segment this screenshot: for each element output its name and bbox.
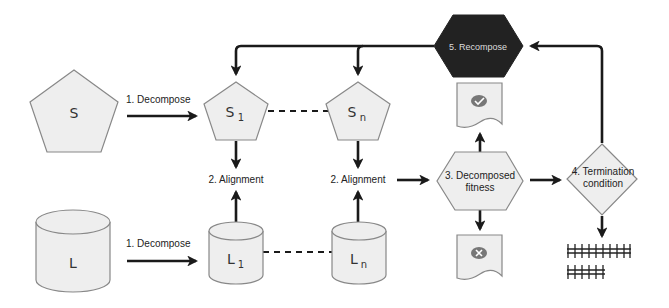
node-doc-pass	[457, 83, 502, 127]
diagram-canvas: 1. Decompose 1. Decompose 2. Alignment 2…	[0, 0, 669, 308]
svg-text:L: L	[227, 251, 235, 267]
label-alignment-1: 2. Alignment	[208, 174, 263, 185]
label-alignment-n: 2. Alignment	[330, 174, 385, 185]
label-decompose-l: 1. Decompose	[126, 238, 191, 249]
svg-text:3. Decomposed: 3. Decomposed	[445, 170, 515, 181]
node-l: L	[36, 210, 110, 292]
svg-text:n: n	[361, 259, 367, 270]
svg-text:S: S	[226, 104, 235, 120]
edge-recompose-s1	[236, 46, 434, 74]
cross-icon	[471, 247, 487, 259]
svg-text:S: S	[70, 105, 79, 121]
tally-marks-icon	[567, 244, 631, 279]
node-s: S	[30, 70, 118, 152]
node-l1: L 1	[209, 222, 263, 284]
svg-text:fitness: fitness	[466, 182, 495, 193]
svg-text:L: L	[350, 251, 358, 267]
node-sn: S n	[326, 82, 390, 140]
svg-text:condition: condition	[583, 178, 623, 189]
node-decomposed-fitness: 3. Decomposed fitness	[437, 152, 523, 210]
svg-text:4. Termination: 4. Termination	[572, 166, 635, 177]
node-doc-fail	[457, 235, 502, 279]
svg-text:L: L	[69, 255, 77, 271]
node-s1: S 1	[204, 82, 268, 140]
svg-text:n: n	[360, 112, 366, 123]
check-icon	[471, 95, 487, 107]
svg-text:S: S	[348, 104, 357, 120]
svg-text:1: 1	[238, 112, 244, 123]
node-termination: 4. Termination condition	[567, 144, 637, 215]
label-decompose-s: 1. Decompose	[126, 94, 191, 105]
node-recompose: 5. Recompose	[434, 15, 523, 77]
node-ln: L n	[332, 222, 386, 284]
edge-termination-recompose	[531, 46, 602, 143]
edge-recompose-sn	[358, 46, 363, 74]
svg-text:1: 1	[238, 259, 244, 270]
svg-text:5. Recompose: 5. Recompose	[449, 42, 507, 52]
